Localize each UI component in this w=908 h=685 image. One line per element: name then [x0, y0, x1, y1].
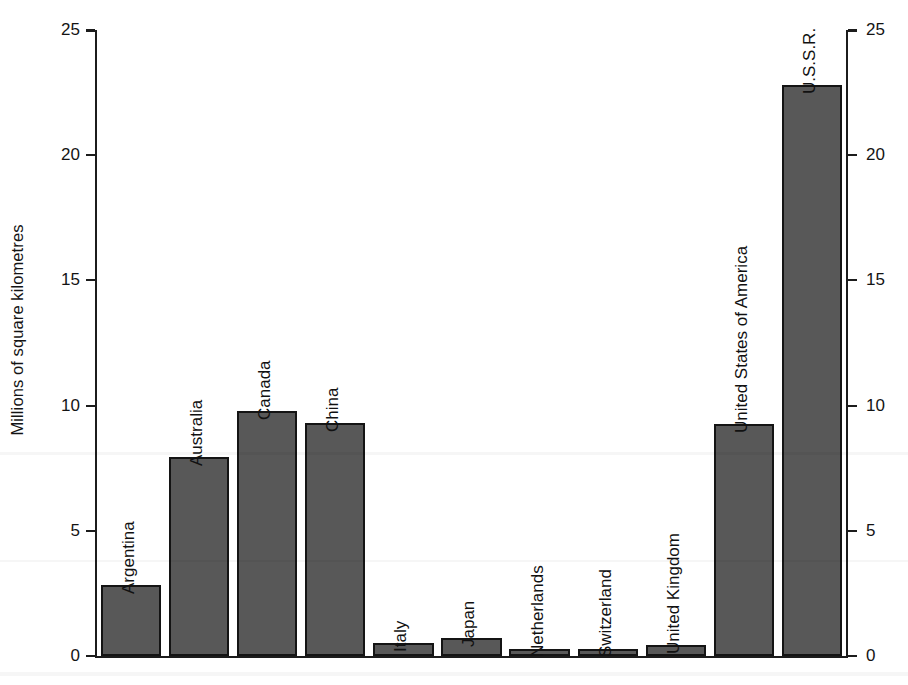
y-axis-tick-right: [848, 405, 857, 407]
y-axis-tick-label-left: 25: [61, 21, 80, 38]
bar-group: Australia: [169, 30, 229, 656]
y-axis-tick-label-right: 25: [866, 21, 885, 38]
bar-group: Japan: [441, 30, 501, 656]
plot-area: ArgentinaAustraliaCanadaChinaItalyJapanN…: [97, 30, 846, 656]
bar-label: Canada: [256, 360, 273, 420]
bar[interactable]: [101, 585, 161, 656]
y-axis-tick-left: [86, 655, 95, 657]
y-axis-tick-right: [848, 279, 857, 281]
bar-group: China: [305, 30, 365, 656]
y-axis-title: Millions of square kilometres: [0, 0, 34, 685]
y-axis-tick-left: [86, 405, 95, 407]
bar[interactable]: [782, 85, 842, 656]
bar[interactable]: [169, 457, 229, 656]
y-axis-tick-right: [848, 655, 857, 657]
bar-group: U.S.S.R.: [782, 30, 842, 656]
bar-label: United States of America: [733, 246, 750, 433]
bar-label: U.S.S.R.: [801, 28, 818, 94]
y-axis-tick-label-right: 5: [866, 522, 875, 539]
bar-group: Netherlands: [509, 30, 569, 656]
bar-group: Argentina: [101, 30, 161, 656]
y-axis-tick-label-right: 10: [866, 397, 885, 414]
bar[interactable]: [237, 411, 297, 656]
y-axis-tick-label-left: 5: [71, 522, 80, 539]
y-axis-top-cap-left: [86, 30, 95, 32]
y-axis-tick-label-left: 20: [61, 146, 80, 163]
bar-label: United Kingdom: [665, 533, 682, 654]
bar-label: Japan: [460, 601, 477, 647]
y-axis-tick-left: [86, 279, 95, 281]
y-axis-tick-left: [86, 154, 95, 156]
bar-label: Italy: [392, 621, 409, 652]
bar[interactable]: [714, 424, 774, 656]
bar[interactable]: [305, 423, 365, 656]
y-axis-top-cap-right: [848, 30, 857, 32]
bar-group: Switzerland: [578, 30, 638, 656]
bar-label: Netherlands: [529, 566, 546, 658]
x-axis-line: [95, 656, 848, 658]
bar-label: Switzerland: [597, 570, 614, 658]
scan-artifact: [0, 672, 908, 676]
y-axis-tick-label-left: 0: [71, 647, 80, 664]
y-axis-tick-label-right: 20: [866, 146, 885, 163]
bar-group: United Kingdom: [646, 30, 706, 656]
y-axis-tick-label-right: 0: [866, 647, 875, 664]
y-axis-tick-left: [86, 530, 95, 532]
bar-label: Argentina: [120, 521, 137, 594]
bar-group: Italy: [373, 30, 433, 656]
bar-label: China: [324, 388, 341, 432]
y-axis-title-text: Millions of square kilometres: [8, 224, 27, 435]
y-axis-tick-label-left: 15: [61, 271, 80, 288]
bar-chart: Millions of square kilometres 0055101015…: [0, 0, 908, 685]
y-axis-tick-label-left: 10: [61, 397, 80, 414]
bar-label: Australia: [188, 400, 205, 466]
y-axis-tick-label-right: 15: [866, 271, 885, 288]
y-axis-tick-right: [848, 154, 857, 156]
bar-group: Canada: [237, 30, 297, 656]
y-axis-tick-right: [848, 530, 857, 532]
bar-group: United States of America: [714, 30, 774, 656]
y-axis-right-line: [846, 30, 848, 658]
